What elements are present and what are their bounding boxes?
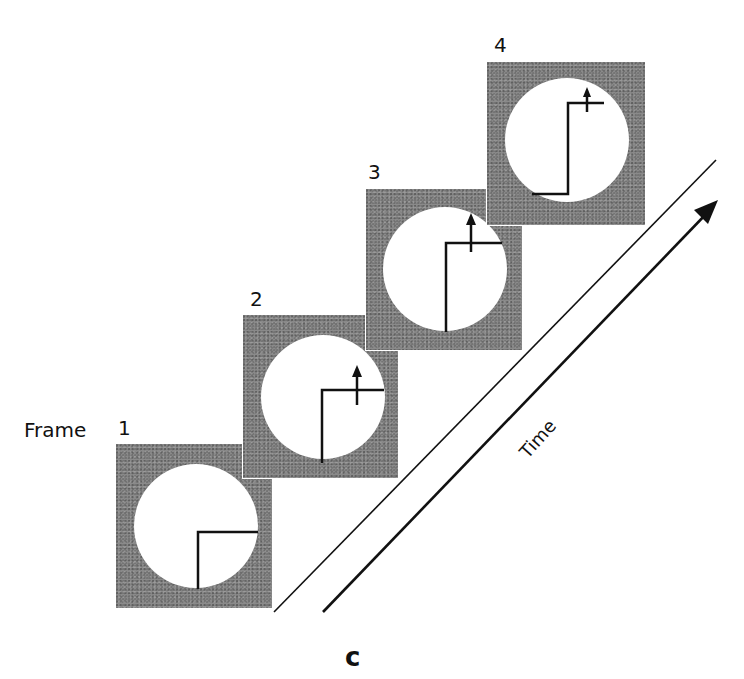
- frame-4-number: 4: [494, 33, 507, 57]
- frame-2-number: 2: [250, 287, 263, 311]
- frame-4: [487, 62, 645, 225]
- frame-3-number: 3: [368, 160, 381, 184]
- frame-label: Frame: [24, 418, 86, 442]
- frame-1-number: 1: [118, 416, 131, 440]
- frame-4-aperture-icon: [487, 62, 645, 225]
- figure-caption: c: [345, 642, 360, 672]
- time-arrow-head-icon: [694, 200, 718, 224]
